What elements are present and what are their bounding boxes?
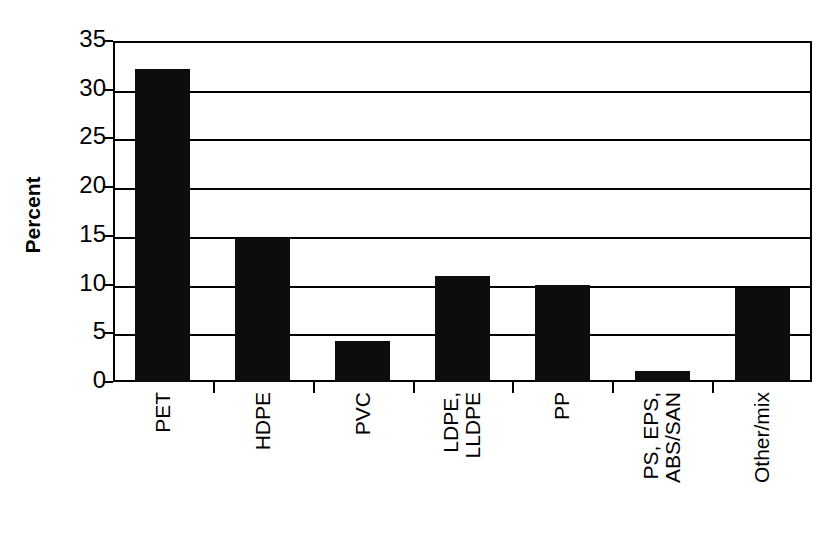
x-axis-label-line: PS, EPS, [640, 392, 662, 480]
y-axis-tick-label: 5 [50, 319, 106, 343]
y-axis-tick-mark [103, 235, 113, 237]
bar [435, 276, 490, 382]
y-axis-tick-mark [103, 381, 113, 383]
x-axis-tick-mark [612, 382, 614, 393]
x-axis-label-line: ABS/SAN [662, 392, 684, 483]
bar-slot [113, 41, 213, 382]
bar-slot [712, 41, 812, 382]
x-axis-tick-mark [712, 382, 714, 393]
x-axis-label-line: Other/mix [751, 392, 773, 483]
x-axis-label-line: PET [152, 392, 174, 433]
y-axis-title-text: Percent [21, 176, 45, 253]
y-axis-tick-label: 30 [50, 76, 106, 100]
y-axis-tick-labels: 05101520253035 [46, 0, 106, 556]
y-axis-tick-label: 35 [50, 27, 106, 51]
x-axis-label: Other/mix [712, 392, 812, 556]
bar [635, 371, 690, 382]
bar [235, 238, 290, 382]
bar-slot [313, 41, 413, 382]
x-axis-label-line: PP [551, 392, 573, 420]
y-axis-tick-mark [103, 137, 113, 139]
x-axis-tick-mark [213, 382, 215, 393]
bar [135, 69, 190, 382]
y-axis-tick-mark [103, 40, 113, 42]
x-axis-tick-mark [512, 382, 514, 393]
y-axis-tick-mark [103, 89, 113, 91]
bar-chart: Percent 05101520253035 PETHDPEPVCLDPE,LL… [0, 0, 834, 556]
x-axis-tick-mark [413, 382, 415, 393]
x-axis-label: PS, EPS,ABS/SAN [612, 392, 712, 556]
y-axis-tick-label: 0 [50, 368, 106, 392]
x-axis-label: PVC [313, 392, 413, 556]
y-axis-tick-mark [103, 186, 113, 188]
x-axis-label: PET [113, 392, 213, 556]
y-axis-tick-label: 20 [50, 173, 106, 197]
x-axis-label-line: HDPE [252, 392, 274, 450]
bar [735, 288, 790, 382]
bar-slot [213, 41, 313, 382]
x-axis-label: PP [512, 392, 612, 556]
y-axis-tick-label: 15 [50, 222, 106, 246]
bar-slot [413, 41, 513, 382]
bar-slot [512, 41, 612, 382]
x-axis-tick-labels: PETHDPEPVCLDPE,LLDPEPPPS, EPS,ABS/SANOth… [113, 392, 812, 556]
y-axis-tick-label: 10 [50, 271, 106, 295]
x-axis-label-line: LDPE, [440, 392, 462, 453]
y-axis-tick-mark [103, 284, 113, 286]
bar [335, 341, 390, 382]
bar-slot [612, 41, 712, 382]
x-axis-label-line: LLDPE [462, 392, 484, 459]
y-axis-tick-mark [103, 332, 113, 334]
x-axis-label-line: PVC [352, 392, 374, 435]
x-axis-label: HDPE [213, 392, 313, 556]
y-axis-tick-label: 25 [50, 124, 106, 148]
x-axis-label: LDPE,LLDPE [413, 392, 513, 556]
bar-series [113, 41, 812, 382]
x-axis-tick-mark [313, 382, 315, 393]
bar [535, 285, 590, 382]
